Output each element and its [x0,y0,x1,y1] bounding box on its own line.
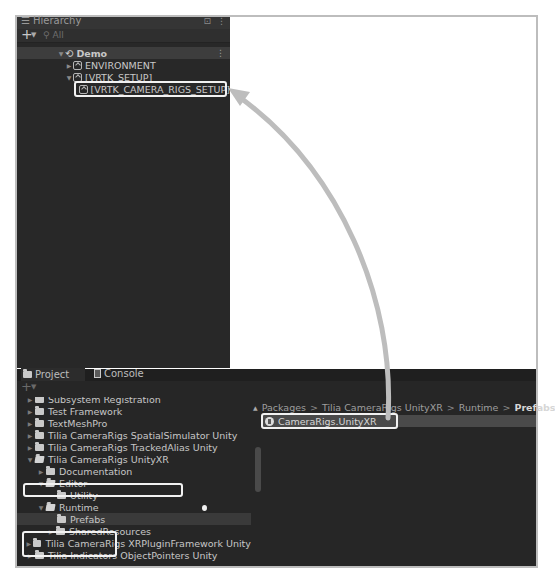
folder-icon [46,468,55,475]
callout-camerarigs-unityxr-folder [23,483,183,497]
expand-arrow-icon[interactable]: ▼ [57,50,65,57]
breadcrumb-runtime[interactable]: Runtime [459,402,499,413]
tree-item-label: Documentation [59,466,132,477]
tree-item-textmeshpro[interactable]: ▶ TextMeshPro [17,417,251,429]
hierarchy-tab-menu: ⊡ ⋮ [203,16,226,26]
chevron-right-icon: > [502,402,510,413]
chevron-down-icon[interactable]: ▼ [31,383,36,391]
chevron-right-icon: > [310,402,318,413]
project-folder-tree: ▶ Subsystem Registration ▶ Test Framewor… [17,397,251,566]
callout-camerarigs-prefab [261,413,398,429]
tab-hierarchy-label: Hierarchy [33,15,81,26]
folder-icon [23,371,32,378]
callout-runtime-prefabs [22,531,117,557]
callout-camera-rigs-setup [74,81,227,97]
scene-row-demo[interactable]: ▼ ⟲ Demo ⋮ [17,47,230,59]
project-toolbar: + ▼ [17,381,536,395]
tree-item-spatial-simulator[interactable]: ▶ Tilia CameraRigs SpatialSimulator Unit… [17,429,251,441]
collapse-arrow-icon[interactable]: ▶ [25,432,35,439]
search-placeholder: All [52,30,63,40]
tree-item-label: Prefabs [70,514,105,525]
tab-project-label: Project [35,369,69,380]
scene-menu-icon[interactable]: ⋮ [216,48,225,58]
collapse-arrow-icon[interactable]: ▶ [25,420,35,427]
folder-icon [35,420,44,427]
hierarchy-panel: ☰ Hierarchy ⊡ ⋮ + ▼ ⚲ All ▼ ⟲ Demo ⋮ ▶ E… [17,17,230,368]
tree-item-label: TextMeshPro [48,418,107,429]
collapse-arrow-icon[interactable]: ▶ [25,397,35,403]
collapse-arrow-icon[interactable]: ▶ [25,408,35,415]
mouse-cursor [202,505,207,511]
tree-item-tracked-alias[interactable]: ▶ Tilia CameraRigs TrackedAlias Unity [17,441,251,453]
tree-item-label: Runtime [59,502,99,513]
tab-console-label: Console [104,368,144,379]
tree-item-label: Subsystem Registration [48,397,161,405]
hierarchy-item-label: ENVIRONMENT [85,60,156,71]
breadcrumb-caret-icon[interactable]: ▲ [253,404,258,411]
folder-icon [35,432,44,439]
breadcrumb-prefabs[interactable]: Prefabs [514,402,555,413]
hierarchy-item-environment[interactable]: ▶ ENVIRONMENT [17,59,230,71]
folder-open-icon [45,504,55,511]
tree-item-subsystem-registration[interactable]: ▶ Subsystem Registration [17,397,251,405]
list-icon: ☰ [21,15,30,26]
search-icon: ⚲ [43,30,50,40]
tree-item-camerarigs-unityxr[interactable]: ▼ Tilia CameraRigs UnityXR [17,453,251,465]
tree-item-documentation[interactable]: ▶ Documentation [17,465,251,477]
tree-item-label: Test Framework [48,406,122,417]
folder-icon [35,397,44,403]
kebab-menu-icon[interactable]: ⋮ [217,16,226,26]
tree-scrollbar[interactable] [255,447,261,492]
scene-icon: ⟲ [65,48,73,59]
breadcrumb-packages[interactable]: Packages [262,402,306,413]
hierarchy-search[interactable]: ⚲ All [43,30,64,40]
project-panel: Project Console + ▼ ▶ Subsystem Registra… [17,369,536,566]
console-icon [94,369,101,378]
chevron-down-icon[interactable]: ▼ [31,31,36,39]
tree-item-label: Tilia CameraRigs TrackedAlias Unity [48,442,218,453]
hierarchy-tabbar: ☰ Hierarchy ⊡ ⋮ [17,17,230,29]
collapse-arrow-icon[interactable]: ▶ [25,444,35,451]
folder-icon [35,408,44,415]
tree-item-label: Tilia CameraRigs UnityXR [48,454,169,465]
breadcrumb: ▲ Packages > Tilia CameraRigs UnityXR > … [253,402,555,413]
project-tabbar: Project Console [17,369,536,381]
collapse-arrow-icon[interactable]: ▶ [65,62,73,69]
gameobject-icon [73,61,82,70]
tab-hierarchy[interactable]: ☰ Hierarchy [21,15,81,26]
lock-icon[interactable]: ⊡ [203,16,211,26]
folder-icon [35,444,44,451]
expand-arrow-icon[interactable]: ▼ [65,74,73,81]
tab-console[interactable]: Console [94,368,144,379]
scene-name: Demo [76,48,107,59]
folder-open-icon [34,456,44,463]
tree-item-runtime[interactable]: ▼ Runtime [17,501,251,513]
collapse-arrow-icon[interactable]: ▶ [36,468,46,475]
tree-item-label: Tilia CameraRigs SpatialSimulator Unity [48,430,237,441]
hierarchy-toolbar: + ▼ ⚲ All [17,29,230,43]
tree-item-prefabs[interactable]: Prefabs [17,513,251,525]
tree-item-test-framework[interactable]: ▶ Test Framework [17,405,251,417]
chevron-right-icon: > [447,402,455,413]
folder-icon [57,516,66,523]
breadcrumb-camerarigs-unityxr[interactable]: Tilia CameraRigs UnityXR [322,402,443,413]
